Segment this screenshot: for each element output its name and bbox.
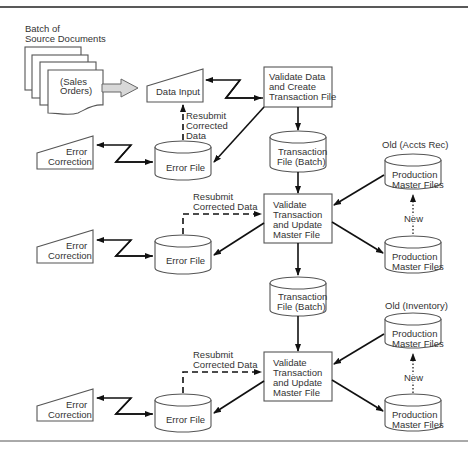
data-input-label: Data Input bbox=[156, 86, 200, 97]
new-master-file-3: Production Master Files bbox=[385, 394, 444, 431]
new-label: New bbox=[404, 372, 423, 383]
old-master-to-process-arrow bbox=[334, 175, 384, 205]
error-file-3: Error File bbox=[155, 394, 211, 432]
resubmit-arrow bbox=[183, 214, 261, 234]
resubmit-label-2: Corrected Data bbox=[193, 359, 258, 370]
comm-link-arrow bbox=[116, 240, 152, 256]
comm-link-arrow bbox=[116, 145, 152, 162]
transaction-file-2: Transaction File (Batch) bbox=[270, 277, 327, 316]
error-file-label: Error File bbox=[166, 162, 205, 173]
process-to-new-master-arrow bbox=[332, 222, 383, 253]
to-error-file-arrow bbox=[214, 381, 264, 413]
error-file-2: Error File bbox=[155, 235, 211, 274]
old-master-file-2: Production Master Files bbox=[385, 154, 444, 190]
process-to-new-master-arrow bbox=[332, 380, 383, 411]
comm-link-arrow bbox=[116, 398, 152, 414]
old-master-caption: Old (Accts Rec) bbox=[382, 139, 449, 150]
batch-processing-flowchart: Batch of Source Documents (Sales Orders)… bbox=[0, 0, 468, 459]
new-master-file-2: Production Master Files bbox=[385, 236, 444, 273]
to-error-file-arrow bbox=[214, 223, 264, 255]
transaction-file-label-2: File (Batch) bbox=[277, 156, 326, 167]
error-file-label: Error File bbox=[166, 414, 205, 425]
error-correction-label-2: Correction bbox=[48, 409, 92, 420]
error-correction-label-2: Correction bbox=[48, 250, 92, 261]
block-arrow-icon bbox=[102, 79, 138, 97]
source-documents-label-2: Orders) bbox=[60, 85, 92, 96]
comm-link-arrow bbox=[206, 80, 263, 98]
new-label: New bbox=[404, 213, 423, 224]
old-master-caption: Old (Inventory) bbox=[385, 300, 448, 311]
transaction-file-label-2: File (Batch) bbox=[277, 301, 326, 312]
resubmit-label-2: Corrected Data bbox=[193, 201, 258, 212]
process-label-4: Master File bbox=[273, 387, 320, 398]
comm-link-arrow bbox=[97, 240, 153, 256]
comm-link-arrow bbox=[97, 145, 153, 162]
error-correction-label-2: Correction bbox=[48, 156, 92, 167]
validate-create-label-3: Transaction File bbox=[269, 91, 336, 102]
resubmit-label-3: Data bbox=[186, 130, 207, 141]
source-documents-caption-2: Source Documents bbox=[25, 33, 106, 44]
error-file-label: Error File bbox=[166, 255, 205, 266]
source-documents: Batch of Source Documents (Sales Orders) bbox=[25, 23, 106, 114]
transaction-file-1: Transaction File (Batch) bbox=[270, 131, 327, 172]
old-master-to-process-arrow bbox=[334, 334, 384, 364]
master-label-2: Master Files bbox=[392, 338, 444, 349]
master-label-2: Master Files bbox=[392, 261, 444, 272]
master-label-2: Master Files bbox=[392, 179, 444, 190]
comm-link-arrow bbox=[97, 398, 153, 414]
master-label-2: Master Files bbox=[392, 419, 444, 430]
process-label-4: Master File bbox=[273, 229, 320, 240]
error-file-1: Error File bbox=[155, 141, 211, 180]
comm-link-arrow bbox=[226, 80, 261, 98]
old-master-file-3: Production Master Files bbox=[385, 313, 444, 349]
